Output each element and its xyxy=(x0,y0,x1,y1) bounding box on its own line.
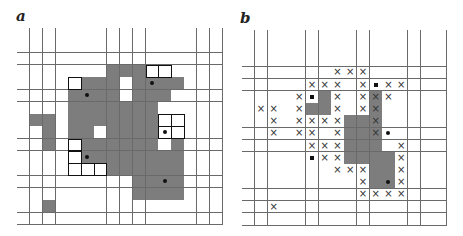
grid-cell xyxy=(146,40,159,53)
grid-cell: × xyxy=(306,128,319,141)
grid-cell xyxy=(255,201,268,214)
grid-cell xyxy=(344,201,357,214)
grid-cell-filled xyxy=(171,163,184,176)
grid-cell xyxy=(107,188,120,201)
grid-cell xyxy=(210,151,223,164)
grid-cell xyxy=(255,79,268,92)
grid-cell xyxy=(421,164,434,177)
grid-cell: × xyxy=(268,201,281,214)
dot-marker-icon xyxy=(163,130,167,134)
grid-cell xyxy=(184,77,197,90)
grid-cell xyxy=(280,140,293,153)
grid-cell: × xyxy=(357,91,370,104)
grid-cell xyxy=(184,28,197,41)
x-marker-icon: × xyxy=(333,153,341,163)
grid-cell xyxy=(81,53,94,66)
grid-cell xyxy=(268,189,281,202)
grid-cell xyxy=(17,28,30,41)
grid-cell xyxy=(344,213,357,226)
x-marker-icon: × xyxy=(359,80,367,90)
grid-cell xyxy=(184,163,197,176)
grid-cell xyxy=(30,163,43,176)
grid-cell xyxy=(171,28,184,41)
grid-cell: × xyxy=(331,103,344,116)
grid-cell xyxy=(30,77,43,90)
x-marker-icon: × xyxy=(320,80,328,90)
grid-cell xyxy=(107,176,120,189)
grid-cell xyxy=(56,28,69,41)
grid-cell xyxy=(120,213,133,226)
grid-cell-filled xyxy=(146,163,159,176)
x-marker-icon: × xyxy=(359,165,367,175)
grid-cell xyxy=(306,54,319,67)
grid-cell xyxy=(242,128,255,141)
grid-cell xyxy=(56,126,69,139)
x-marker-icon: × xyxy=(397,80,405,90)
grid-cell: × xyxy=(293,103,306,116)
grid-cell xyxy=(421,140,434,153)
grid-cell xyxy=(94,53,107,66)
grid-cell-filled xyxy=(146,77,159,90)
grid-cell xyxy=(158,139,171,152)
grid-cell xyxy=(17,65,30,78)
grid-cell xyxy=(56,151,69,164)
grid-cell xyxy=(268,140,281,153)
grid-cell xyxy=(319,213,332,226)
grid-cell-filled xyxy=(68,90,81,103)
grid-cell xyxy=(81,188,94,201)
grid-cell xyxy=(395,115,408,128)
grid-cell: × xyxy=(331,91,344,104)
grid-cell xyxy=(30,213,43,226)
grid-cell xyxy=(56,163,69,176)
grid-cell xyxy=(120,40,133,53)
grid-cell xyxy=(158,200,171,213)
grid-cell xyxy=(210,65,223,78)
grid-cell xyxy=(210,77,223,90)
grid-cell-filled xyxy=(133,151,146,164)
x-marker-icon: × xyxy=(295,104,303,114)
grid-cell xyxy=(242,152,255,165)
dot-marker-icon xyxy=(163,179,167,183)
grid-cell xyxy=(408,103,421,116)
grid-cell xyxy=(197,126,210,139)
grid-cell xyxy=(255,42,268,55)
grid-cell xyxy=(68,188,81,201)
grid-cell xyxy=(56,65,69,78)
x-marker-icon: × xyxy=(308,80,316,90)
grid-cell-filled xyxy=(344,152,357,165)
grid-cell xyxy=(255,140,268,153)
grid-cell xyxy=(30,102,43,115)
grid-cell xyxy=(293,42,306,55)
grid-cell-filled xyxy=(133,163,146,176)
grid-cell-filled xyxy=(344,115,357,128)
grid-cell xyxy=(331,30,344,43)
grid-cell: × xyxy=(382,79,395,92)
grid-cell-filled xyxy=(171,139,184,152)
grid-cell-filled xyxy=(370,176,383,189)
grid-cell xyxy=(68,213,81,226)
grid-cell: × xyxy=(395,140,408,153)
grid-cell: × xyxy=(331,115,344,128)
grid-cell xyxy=(81,163,94,176)
square-marker-icon xyxy=(374,83,378,87)
grid-cell-filled xyxy=(146,188,159,201)
grid-cell xyxy=(30,176,43,189)
grid-cell xyxy=(171,90,184,103)
grid-cell-filled xyxy=(43,126,56,139)
x-marker-icon: × xyxy=(295,92,303,102)
grid-cell xyxy=(433,213,446,226)
grid-cell-filled xyxy=(107,139,120,152)
grid-cell xyxy=(43,65,56,78)
grid-cell-filled xyxy=(81,90,94,103)
grid-cell xyxy=(56,102,69,115)
grid-cell xyxy=(242,103,255,116)
grid-cell xyxy=(293,213,306,226)
grid-cell xyxy=(68,28,81,41)
grid-cell-filled xyxy=(382,164,395,177)
grid-cell: × xyxy=(357,164,370,177)
grid-cell xyxy=(370,30,383,43)
grid-cell xyxy=(293,189,306,202)
x-marker-icon: × xyxy=(333,116,341,126)
grid-cell xyxy=(43,77,56,90)
grid-cell xyxy=(370,67,383,80)
